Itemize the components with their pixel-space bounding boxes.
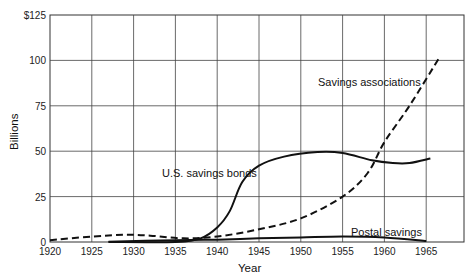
x-tick-label: 1935 xyxy=(164,246,187,257)
x-tick-label: 1945 xyxy=(248,246,271,257)
y-tick-label: 25 xyxy=(35,192,47,203)
x-tick-label: 1960 xyxy=(373,246,396,257)
y-tick-label: $125 xyxy=(24,10,47,21)
x-tick-label: 1955 xyxy=(331,246,354,257)
x-tick-label: 1965 xyxy=(415,246,438,257)
chart: 1920192519301935194019451950195519601965… xyxy=(0,0,473,276)
y-tick-label: 75 xyxy=(35,101,47,112)
x-tick-label: 1950 xyxy=(290,246,313,257)
gridlines xyxy=(50,15,464,242)
y-tick-label: 50 xyxy=(35,146,47,157)
y-axis-title: Billions xyxy=(8,113,20,150)
tick-labels: 1920192519301935194019451950195519601965… xyxy=(24,10,438,257)
label-savings-associations: Savings associations xyxy=(318,76,421,88)
x-tick-label: 1930 xyxy=(122,246,145,257)
y-tick-label: 0 xyxy=(40,237,46,248)
y-tick-label: 100 xyxy=(29,55,46,66)
x-tick-label: 1940 xyxy=(206,246,229,257)
label-postal-savings: Postal savings xyxy=(351,226,422,238)
x-tick-label: 1925 xyxy=(81,246,104,257)
x-axis-title: Year xyxy=(238,262,261,274)
label-us-savings-bonds: U.S. savings bonds xyxy=(162,167,257,179)
